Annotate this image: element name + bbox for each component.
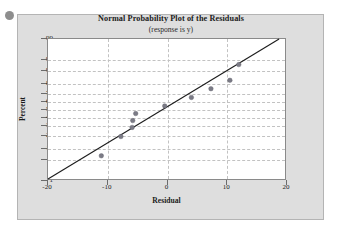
data-point: [162, 104, 167, 109]
data-points-group: [99, 62, 241, 158]
reference-line: [48, 39, 279, 179]
x-tick-label: 10: [223, 183, 230, 191]
x-tick-label: 20: [283, 183, 290, 191]
data-point: [119, 134, 124, 139]
y-tick-mark: [41, 180, 47, 181]
x-tick-label: -20: [42, 183, 51, 191]
data-point: [99, 154, 104, 159]
plot-area: [47, 38, 286, 180]
x-tick-label: -10: [102, 183, 111, 191]
x-tick-label: 0: [165, 183, 169, 191]
data-point: [209, 86, 214, 91]
data-point: [130, 118, 135, 123]
x-axis-title: Residual: [47, 196, 286, 205]
y-axis-title: Percent: [18, 97, 27, 121]
data-point: [189, 95, 194, 100]
data-point: [130, 125, 135, 130]
chart-subtitle: (response is y): [0, 25, 342, 34]
data-point: [133, 111, 138, 116]
chart-title: Normal Probability Plot of the Residuals: [0, 14, 342, 23]
data-point: [228, 78, 233, 83]
plot-canvas: [48, 39, 285, 179]
data-point: [237, 62, 242, 67]
